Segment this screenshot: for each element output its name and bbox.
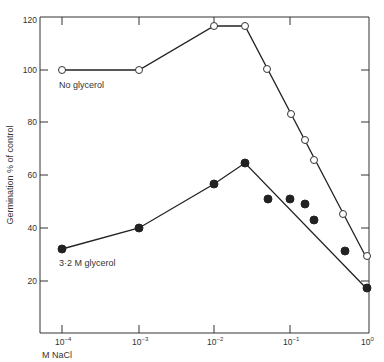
y-tick-100: 100 — [23, 65, 37, 75]
x-tick-1e-3: 10−3 — [132, 336, 149, 347]
y-tick-20: 20 — [28, 276, 38, 286]
x-tick-1e-1: 10−1 — [283, 336, 300, 347]
y-tick-40: 40 — [28, 223, 38, 233]
y-tick-120: 120 — [23, 15, 37, 25]
y-axis-ticks — [40, 70, 369, 281]
series-no-glycerol-markers — [59, 23, 371, 260]
chart: 120 100 80 60 40 20 10−4 10−3 10−2 10−1 … — [0, 0, 384, 362]
y-tick-labels: 120 100 80 60 40 20 — [23, 15, 37, 286]
x-tick-1e0: 100 — [361, 336, 374, 347]
annotation-glycerol: 3·2 M glycerol — [59, 258, 116, 268]
x-axis-label: M NaCl — [42, 350, 72, 360]
x-tick-1e-4: 10−4 — [55, 336, 72, 347]
series-no-glycerol-line — [62, 26, 366, 257]
plot-frame — [40, 17, 369, 333]
x-tick-1e-2: 10−2 — [207, 336, 224, 347]
y-tick-80: 80 — [28, 117, 38, 127]
y-axis-label: Germination % of control — [5, 125, 15, 224]
y-tick-60: 60 — [28, 170, 38, 180]
series-glycerol-markers — [58, 159, 371, 292]
x-tick-labels: 10−4 10−3 10−2 10−1 100 — [55, 336, 374, 347]
annotation-no-glycerol: No glycerol — [59, 80, 104, 90]
